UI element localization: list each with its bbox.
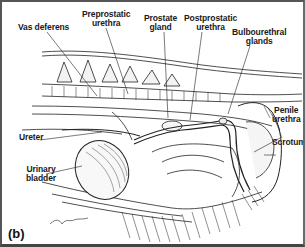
label-vas-deferens: Vas deferens bbox=[18, 23, 69, 32]
label-text: urethra bbox=[184, 23, 237, 32]
label-ureter: Ureter bbox=[19, 133, 43, 142]
label-urinary-bladder: Urinary bladder bbox=[26, 165, 56, 183]
label-postprostatic-urethra: Postprostatic urethra bbox=[184, 14, 237, 32]
panel-label: (b) bbox=[8, 226, 25, 241]
label-text: urethra bbox=[82, 19, 130, 28]
label-text: gland bbox=[144, 23, 177, 32]
anatomy-figure: Vas deferens Preprostatic urethra Prosta… bbox=[0, 0, 305, 247]
label-text: urethra bbox=[272, 115, 301, 124]
label-text: Vas deferens bbox=[18, 22, 69, 32]
label-prostate-gland: Prostate gland bbox=[144, 14, 177, 32]
label-text: glands bbox=[232, 37, 286, 46]
label-scrotum: Scrotum bbox=[272, 138, 305, 147]
label-bulbourethral-glands: Bulbourethral glands bbox=[232, 28, 286, 46]
label-preprostatic-urethra: Preprostatic urethra bbox=[82, 10, 130, 28]
label-text: Scrotum bbox=[272, 137, 305, 147]
label-text: Ureter bbox=[19, 132, 43, 142]
label-text: bladder bbox=[26, 174, 56, 183]
label-penile-urethra: Penile urethra bbox=[272, 106, 301, 124]
